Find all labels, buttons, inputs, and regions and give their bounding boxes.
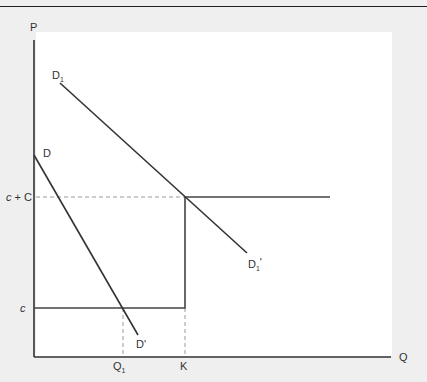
price-label-c: c xyxy=(20,302,26,314)
curve-label-D1-prime: D1' xyxy=(248,256,262,272)
y-axis-label: P xyxy=(30,21,37,33)
curve-label-D-prime: D' xyxy=(136,338,146,350)
curve-label-D1: D1 xyxy=(52,69,64,83)
quantity-label-K: K xyxy=(180,360,188,372)
quantity-label-Q1: Q1 xyxy=(113,360,126,374)
supply-step-curve xyxy=(34,197,330,308)
price-label-c-plus-C: c + C xyxy=(6,191,32,203)
supply-demand-diagram: P Q c + C c Q1 K D D' D1 D1' xyxy=(0,0,427,382)
demand-curve-D1 xyxy=(60,83,247,253)
curve-label-D: D xyxy=(43,147,51,159)
x-axis-label: Q xyxy=(399,351,408,363)
